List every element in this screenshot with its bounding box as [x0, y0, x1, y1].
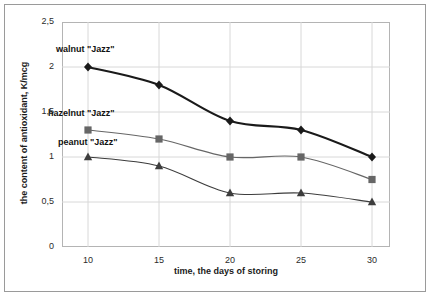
x-axis-tick-label: 25 [281, 255, 321, 265]
data-point-marker-diamond [297, 125, 305, 134]
data-point-marker-square [84, 126, 91, 133]
data-point-marker-diamond [155, 80, 163, 89]
y-axis-title: the content of antioxidant, K/mcg [19, 33, 29, 233]
series-label-1: hazelnut "Jazz" [48, 108, 115, 118]
x-axis-title: time, the days of storing [62, 266, 390, 276]
data-point-marker-square [226, 153, 233, 160]
x-axis-tick-label: 20 [210, 255, 250, 265]
y-axis-tick-label: 2,5 [14, 16, 54, 26]
chart-figure: 00,511,522,5 1015202530 walnut "Jazz"haz… [0, 0, 430, 298]
x-axis-tick-label: 30 [352, 255, 392, 265]
series-label-0: walnut "Jazz" [56, 44, 115, 54]
data-point-marker-diamond [84, 62, 92, 71]
data-point-marker-square [368, 176, 375, 183]
data-point-marker-triangle [84, 153, 92, 161]
data-point-marker-diamond [368, 152, 376, 161]
series-label-2: peanut "Jazz" [58, 137, 118, 147]
data-point-marker-diamond [226, 116, 234, 125]
data-point-marker-square [297, 153, 304, 160]
data-point-marker-square [155, 135, 162, 142]
x-axis-tick-label: 10 [68, 255, 108, 265]
gridlines [62, 22, 390, 247]
y-axis-tick-label: 0 [14, 241, 54, 251]
x-axis-tick-label: 15 [139, 255, 179, 265]
